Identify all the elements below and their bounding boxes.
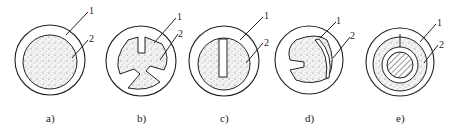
callout-1: 1 xyxy=(89,5,94,16)
panel-b: 1 2 b) xyxy=(106,11,183,125)
callout-2: 2 xyxy=(89,33,94,44)
callout-1: 1 xyxy=(336,15,341,26)
callout-1: 1 xyxy=(437,17,442,28)
callout-2: 2 xyxy=(350,30,355,41)
callout-1: 1 xyxy=(264,10,269,21)
cross-section-diagram: 1 2 a) 1 2 b) 1 2 c) 1 2 d) xyxy=(0,0,459,130)
panel-d: 1 2 d) xyxy=(275,15,355,125)
callout-2: 2 xyxy=(439,39,444,50)
panel-caption: d) xyxy=(305,112,315,125)
panel-c: 1 2 c) xyxy=(189,10,269,125)
panel-e: 1 2 e) xyxy=(366,17,444,125)
panel-a: 1 2 a) xyxy=(15,5,94,125)
panel-caption: a) xyxy=(46,112,55,125)
panel-caption: e) xyxy=(396,112,405,125)
callout-2: 2 xyxy=(178,28,183,39)
panel-caption: c) xyxy=(220,112,229,125)
panel-caption: b) xyxy=(137,112,147,125)
callout-1: 1 xyxy=(177,11,182,22)
callout-2: 2 xyxy=(264,37,269,48)
